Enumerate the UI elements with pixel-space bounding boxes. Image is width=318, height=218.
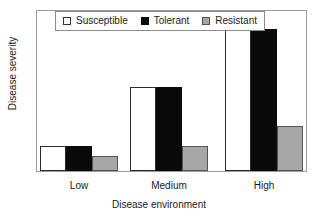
chart-figure: Disease severity Susceptible Tolerant [0,0,318,218]
legend-entry-tolerant: Tolerant [141,16,190,26]
legend-swatch-tolerant-icon [141,17,149,25]
bar-high-tolerant [251,29,277,171]
bar-medium-resistant [182,146,208,171]
x-tick-label-medium: Medium [151,180,187,191]
legend-entry-resistant: Resistant [202,16,257,26]
legend-label-susceptible: Susceptible [76,16,128,26]
y-axis-label: Disease severity [7,14,18,134]
bars-container [37,11,306,171]
bar-high-resistant [277,126,303,171]
bar-low-tolerant [66,146,92,171]
plot-area [36,10,307,172]
bar-low-resistant [92,156,118,171]
x-tick-label-high: High [254,180,275,191]
legend-swatch-susceptible-icon [63,17,71,25]
x-axis-label: Disease environment [0,199,318,210]
chart-legend: Susceptible Tolerant Resistant [55,11,265,31]
legend-label-resistant: Resistant [215,16,257,26]
bar-medium-susceptible [130,87,156,171]
x-tick-label-low: Low [70,180,88,191]
bar-low-susceptible [40,146,66,171]
legend-entry-susceptible: Susceptible [63,16,128,26]
legend-label-tolerant: Tolerant [154,16,190,26]
bar-high-susceptible [225,29,251,171]
legend-swatch-resistant-icon [202,17,210,25]
bar-medium-tolerant [156,87,182,171]
